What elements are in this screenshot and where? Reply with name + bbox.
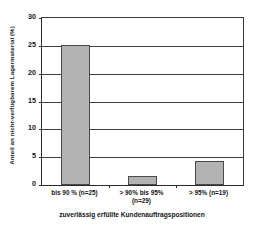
y-tick-mark	[39, 46, 42, 47]
bar	[195, 161, 223, 185]
y-tick-label: 5	[32, 153, 36, 160]
y-tick-label: 10	[28, 125, 36, 132]
bar	[61, 45, 89, 185]
x-tick-label: > 90% bis 95%(n=29)	[108, 189, 175, 205]
y-axis-title: Anteil an nicht-verfügbarem Lagermateria…	[0, 0, 22, 190]
y-tick-label: 20	[28, 69, 36, 76]
y-tick-label: 15	[28, 97, 36, 104]
bar	[128, 176, 156, 185]
x-tick-label-line: bis 90 % (n=25)	[41, 189, 108, 197]
x-tick-mark	[176, 185, 177, 188]
x-tick-label: bis 90 % (n=25)	[41, 189, 108, 197]
y-tick-mark	[39, 102, 42, 103]
y-tick-mark	[39, 129, 42, 130]
y-tick-mark	[39, 185, 42, 186]
y-axis-title-text: Anteil an nicht-verfügbarem Lagermateria…	[8, 26, 15, 165]
plot-area	[41, 17, 244, 186]
y-tick-mark	[39, 18, 42, 19]
y-axis-tick-labels: 051015202530	[20, 17, 38, 186]
y-tick-label: 25	[28, 41, 36, 48]
x-axis-tick-labels: bis 90 % (n=25)> 90% bis 95%(n=29)> 95% …	[41, 189, 244, 211]
x-tick-label-line: > 90% bis 95%	[108, 189, 175, 197]
x-axis-title: zuverlässig erfüllte Kundenauftragsposit…	[0, 211, 264, 218]
x-tick-mark	[109, 185, 110, 188]
x-tick-label: > 95% (n=19)	[175, 189, 242, 197]
y-tick-mark	[39, 157, 42, 158]
bar-chart-figure: Anteil an nicht-verfügbarem Lagermateria…	[0, 0, 264, 227]
y-tick-label: 30	[28, 13, 36, 20]
x-tick-label-line: > 95% (n=19)	[175, 189, 242, 197]
y-tick-label: 0	[32, 180, 36, 187]
x-tick-label-line: (n=29)	[108, 197, 175, 205]
y-tick-mark	[39, 74, 42, 75]
